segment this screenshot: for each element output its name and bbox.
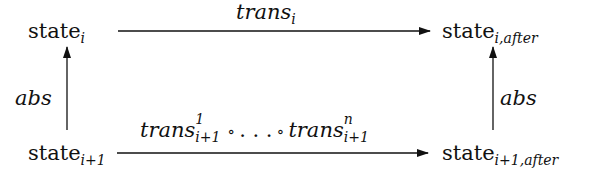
node-sub: i+1 [81, 152, 106, 168]
label-trans-i: transi [236, 2, 296, 26]
node-state-i-after: statei,after [442, 21, 538, 45]
label-abs-left: abs [15, 88, 52, 109]
edge-label: trans [236, 0, 291, 24]
compose-symbol: ∘ [223, 122, 239, 141]
edge-label: trans [288, 118, 343, 142]
node-sub: i [81, 30, 85, 46]
edge-sub: i [291, 11, 295, 27]
label-trans-composition: trans1i+1∘. . .∘transni+1 [140, 120, 372, 142]
node-state-i: statei [28, 21, 85, 45]
node-sub: i,after [495, 30, 538, 46]
node-sub: i+1,after [495, 152, 559, 168]
node-base: state [442, 19, 495, 43]
index-pair: ni+1 [344, 122, 372, 142]
node-base: state [28, 19, 81, 43]
edge-sup: 1 [195, 112, 204, 126]
edge-sub: i+1 [195, 130, 220, 144]
edge-sup: n [344, 112, 353, 126]
node-base: state [442, 141, 495, 165]
node-state-i-plus-1: statei+1 [28, 143, 106, 167]
label-abs-right: abs [500, 88, 537, 109]
edge-label: trans [140, 118, 195, 142]
node-base: state [28, 141, 81, 165]
index-pair: 1i+1 [195, 122, 223, 142]
edge-sub: i+1 [344, 130, 369, 144]
ellipsis: . . . [239, 118, 272, 142]
node-state-i-plus-1-after: statei+1,after [442, 143, 558, 167]
compose-symbol: ∘ [273, 122, 289, 141]
